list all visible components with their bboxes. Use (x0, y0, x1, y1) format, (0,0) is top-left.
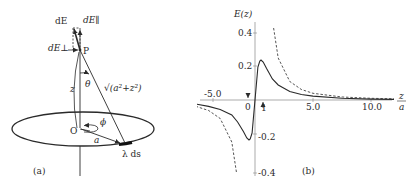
label-dE-perp: dE⊥ (48, 43, 69, 53)
y-tick-label: -0.2 (258, 132, 275, 142)
panel-b-label: (b) (302, 166, 315, 176)
label-O: O (70, 126, 77, 136)
y-tick-label: 0.4 (238, 28, 253, 38)
label-a: a (94, 135, 99, 145)
x-tick-label: 5.0 (306, 102, 321, 112)
panel-a-label: (a) (33, 166, 45, 176)
panel-b-chart: -5.0 0 1 5.0 10.0 0.4 0.2 -0.2 -0.4 E(z)… (197, 9, 406, 178)
x-tick-label: 1 (261, 103, 267, 113)
x-axis-label-denominator: a (399, 102, 404, 112)
x-tick-label: 0 (245, 102, 251, 112)
y-tick-label: 0.2 (238, 61, 252, 71)
radius-a-line (81, 129, 120, 143)
x-tick-label: -5.0 (204, 89, 222, 99)
label-theta: θ (85, 79, 91, 89)
label-dE-parallel: dE∥ (83, 15, 100, 25)
x-tick-label: 10.0 (362, 102, 382, 112)
x-axis-label-numerator: z (398, 91, 404, 101)
dE-vector-arrow (74, 29, 80, 50)
label-z: z (69, 84, 75, 94)
label-dE: dE (55, 16, 67, 26)
distance-line (80, 50, 125, 143)
panel-a-diagram: dE dE∥ dE⊥ P θ z √(a²+z²) ϕ O a λ ds (a) (12, 15, 154, 176)
series-dashed-negative (197, 107, 236, 172)
label-phi: ϕ (100, 117, 106, 127)
theta-arc (80, 73, 89, 74)
series-dashed-positive (274, 28, 394, 99)
figure: dE dE∥ dE⊥ P θ z √(a²+z²) ϕ O a λ ds (a) (0, 0, 416, 188)
y-axis-label: E(z) (233, 9, 253, 19)
charged-ring (12, 112, 154, 146)
label-distance: √(a²+z²) (104, 83, 142, 93)
label-lambda-ds: λ ds (122, 149, 141, 159)
y-tick-label: -0.4 (258, 168, 276, 178)
label-P: P (83, 46, 89, 56)
